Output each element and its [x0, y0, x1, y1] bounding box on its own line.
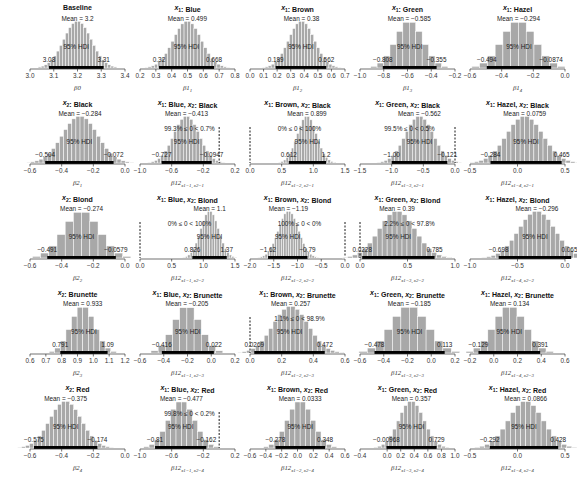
x-tick-label: 1.0	[309, 167, 318, 174]
hdi-lower-label: −0.491	[37, 246, 57, 253]
histogram-panel-b12_32: x1: Green, x2: Blond2.2% ≤ 0 < 97.8%Mean…	[350, 192, 465, 288]
x-tick-label: 3.3	[97, 72, 106, 79]
hdi-label: 95% HDI	[69, 233, 95, 240]
x-tick-label: 0.5	[403, 262, 412, 269]
hdi-upper-label: −0.174	[88, 436, 108, 443]
hdi-lower-label: −0.727	[152, 151, 172, 158]
x-tick-label: 0.7	[215, 72, 224, 79]
x-tick-label: 0.6	[423, 452, 432, 459]
x-axis-label: β11	[182, 84, 192, 93]
panel-title: x2: Red	[64, 384, 89, 393]
x-axis: −0.20.00.20.40.6	[464, 354, 570, 364]
x-axis-label: β12x1=3, x2=3	[390, 369, 425, 379]
mean-label: Mean = 0.933	[63, 300, 103, 307]
histogram-panel-b12_14: x1: Blue, x2: Red99.8% ≤ 0 < 0.2%Mean = …	[130, 382, 245, 478]
hdi-lower-label: 3.08	[43, 56, 56, 63]
x-tick-label: −0.4	[55, 452, 68, 459]
histogram-panel-b12_11: x1: Blue, x2: Black99.3% ≤ 0 < 0.7%Mean …	[130, 97, 245, 193]
panel-title: x1: Blue, x2: Black	[157, 99, 218, 109]
x-tick-label: 0.5	[313, 72, 322, 79]
x-axis-label: β12x1=1, x2=2	[170, 274, 205, 284]
mean-label: Mean = −0.477	[160, 395, 203, 402]
hdi-upper-label: 1.09	[101, 341, 114, 348]
x-tick-label: 0.2	[273, 72, 282, 79]
mean-label: Mean = 0.0333	[279, 395, 322, 402]
x-tick-label: 0.0	[293, 452, 302, 459]
x-tick-label: −0.4	[157, 357, 170, 364]
hdi-upper-label: 3.31	[97, 56, 110, 63]
mean-label: Mean = 0.134	[490, 300, 530, 307]
mean-label: Mean = 1.1	[194, 205, 227, 212]
histogram-panel-b2_2: x2: BlondMean = −0.27495% HDI−0.491−0.05…	[20, 192, 135, 288]
hdi-label: 95% HDI	[67, 138, 93, 145]
hdi-label: 95% HDI	[174, 138, 200, 145]
x-tick-label: 1.0	[451, 262, 460, 269]
hdi-label: 95% HDI	[506, 43, 532, 50]
hdi-lower-label: −0.278	[266, 436, 286, 443]
mean-label: Mean = −0.185	[388, 300, 431, 307]
hdi-upper-label: 1.2	[322, 151, 331, 158]
x-tick-label: 0.2	[136, 72, 145, 79]
x-tick-label: −0.8	[377, 72, 390, 79]
x-tick-label: 0.2	[231, 167, 240, 174]
hdi-upper-label: 0.562	[318, 56, 334, 63]
x-tick-label: −1.0	[354, 72, 367, 79]
x-tick-label: 0.6	[561, 357, 570, 364]
hdi-lower-label: 0.791	[52, 341, 68, 348]
x-tick-label: −0.4	[495, 72, 508, 79]
histogram-panel-b1_2: x1: BrownMean = 0.3895% HDI0.1890.5620.0…	[240, 2, 355, 98]
hdi-label: 95% HDI	[53, 423, 79, 430]
x-axis-label: β12x1=2, x2=4	[280, 464, 315, 474]
x-axis: −0.50.00.5	[464, 164, 570, 174]
x-axis-label: β12x1=4, x2=3	[500, 369, 535, 379]
x-tick-label: 0.0	[513, 167, 522, 174]
hdi-label: 95% HDI	[407, 138, 433, 145]
x-tick-label: −0.4	[377, 357, 390, 364]
hdi-lower-label: −0.284	[481, 151, 501, 158]
x-tick-label: 0.6	[327, 72, 336, 79]
hdi-lower-label: −0.478	[365, 341, 385, 348]
x-tick-label: −0.6	[24, 262, 37, 269]
x-tick-label: 0.4	[167, 72, 176, 79]
x-tick-label: 0.0	[561, 72, 570, 79]
x-tick-label: −0.4	[354, 452, 367, 459]
x-tick-label: −0.2	[275, 452, 288, 459]
x-axis-label: β12	[292, 84, 303, 93]
x-tick-label: −0.6	[165, 452, 178, 459]
hdi-label: 95% HDI	[386, 233, 412, 240]
hdi-label: 95% HDI	[511, 423, 537, 430]
hdi-upper-label: −0.0874	[540, 56, 564, 63]
hdi-upper-label: 0.0655	[561, 246, 577, 253]
x-axis: −1.0−0.6−0.20.2	[134, 449, 240, 459]
x-tick-label: 0.5	[277, 167, 286, 174]
comparison-label: 2.2% ≤ 0 < 97.8%	[384, 220, 435, 227]
hdi-label: 95% HDI	[64, 43, 90, 50]
hdi-label: 95% HDI	[71, 328, 97, 335]
panel-title: x1: Hazel, x2: Blond	[485, 194, 550, 204]
x-tick-label: −0.4	[55, 167, 68, 174]
x-tick-label: 0.0	[489, 357, 498, 364]
comparison-label: 99.8% ≤ 0 < 0.2%	[164, 410, 215, 417]
histogram-panel-b2_3: x2: BrunetteMean = 0.93395% HDI0.7911.09…	[20, 287, 135, 383]
x-tick-label: −0.6	[401, 72, 414, 79]
histogram-panel-b12_31: x1: Green, x2: Black99.5% ≤ 0 < 0.5%Mean…	[350, 97, 465, 193]
panel-title: x1: Brown	[280, 4, 314, 13]
panel-title: x1: Blue, x2: Blond	[156, 194, 218, 204]
x-tick-label: −0.4	[55, 262, 68, 269]
x-tick-label: −1.0	[134, 167, 147, 174]
x-axis: −2.0−1.5−1.0−0.50.0	[244, 259, 350, 269]
hdi-label: 95% HDI	[522, 233, 548, 240]
panel-title: x1: Green	[391, 4, 423, 13]
hdi-lower-label: −0.494	[477, 56, 497, 63]
x-tick-label: 0.6	[341, 357, 350, 364]
x-tick-label: 0.8	[437, 452, 446, 459]
x-tick-label: 0.6	[341, 452, 350, 459]
x-tick-label: −0.5	[464, 167, 477, 174]
histogram-panel-b12_33: x1: Green, x2: BrunetteMean = −0.18595% …	[350, 287, 465, 383]
x-tick-label: 0.2	[309, 452, 318, 459]
histogram-panel-b1_1: x1: BlueMean = 0.49995% HDI0.320.6680.20…	[130, 2, 245, 98]
x-axis-label: β12x1=1, x2=3	[170, 369, 205, 379]
x-tick-label: 0.4	[300, 72, 309, 79]
x-axis: −0.6−0.4−0.20.0	[24, 449, 130, 459]
x-axis-label: β21	[72, 179, 82, 188]
